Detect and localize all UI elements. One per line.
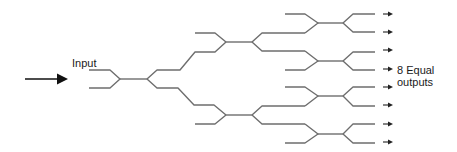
output-arrow-icon — [383, 30, 393, 35]
stage3-junction-3 — [285, 87, 375, 106]
input-arrow-icon — [25, 74, 68, 85]
output-arrow-icon — [383, 48, 393, 53]
output-label-line1: 8 Equal — [397, 64, 434, 76]
output-arrow-icon — [383, 67, 393, 72]
output-arrow-icon — [383, 85, 393, 90]
output-arrow-icon — [383, 122, 393, 127]
output-arrow-icon — [383, 140, 393, 145]
splitter-diagram — [0, 0, 457, 152]
stage3-junction-1 — [285, 14, 375, 33]
stage2-upper-junction — [195, 33, 305, 51]
stage1-junction — [89, 42, 226, 115]
output-label-line2: outputs — [397, 76, 434, 88]
stage3-junction-4 — [285, 124, 375, 143]
output-arrow-icon — [383, 103, 393, 108]
stage3-junction-2 — [285, 51, 375, 70]
output-arrow-icon — [383, 12, 393, 17]
input-label: Input — [72, 57, 96, 69]
output-label: 8 Equal outputs — [397, 64, 434, 88]
stage2-lower-junction — [195, 106, 305, 124]
output-arrows — [383, 12, 393, 145]
